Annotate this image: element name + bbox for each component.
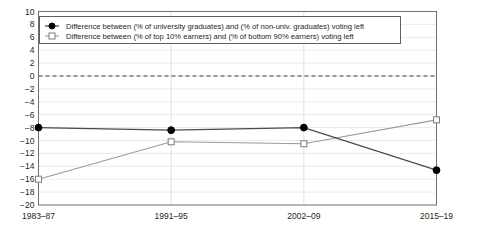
y-tick-label: −12: [20, 148, 35, 158]
data-point-marker: [300, 124, 307, 131]
data-point-marker: [168, 127, 175, 134]
legend-label-graduates: Difference between (% of university grad…: [66, 22, 365, 31]
legend-marker-filled-circle-icon: [49, 23, 55, 29]
legend-entry-graduates: Difference between (% of university grad…: [45, 22, 365, 31]
legend-label-earners: Difference between (% of top 10% earners…: [66, 32, 355, 41]
y-tick-label: −2: [25, 84, 35, 94]
y-tick-label: 8: [30, 19, 35, 29]
line-chart: 1086420−2−4−6−8−10−12−14−16−18−20 1983–8…: [0, 0, 477, 228]
data-point-marker: [36, 176, 42, 182]
y-tick-label: −20: [20, 200, 35, 210]
y-tick-label: −6: [25, 110, 35, 120]
x-axis-tick-labels: 1983–871991–952002–092015–19: [22, 211, 453, 221]
data-point-marker: [301, 141, 307, 147]
y-tick-label: −14: [20, 161, 35, 171]
y-tick-label: 10: [25, 7, 35, 17]
data-point-marker: [168, 139, 174, 145]
data-point-marker: [433, 167, 440, 174]
y-tick-label: 4: [30, 45, 35, 55]
x-tick-label: 1983–87: [22, 211, 55, 221]
horizontal-gridlines: [39, 24, 437, 192]
chart-legend: Difference between (% of university grad…: [40, 17, 401, 44]
y-tick-label: −16: [20, 174, 35, 184]
y-tick-label: −18: [20, 187, 35, 197]
x-tick-label: 1991–95: [155, 211, 188, 221]
y-tick-label: −4: [25, 97, 35, 107]
y-tick-label: −10: [20, 136, 35, 146]
x-tick-label: 2002–09: [287, 211, 320, 221]
y-tick-label: −8: [25, 123, 35, 133]
x-tick-label: 2015–19: [420, 211, 453, 221]
legend-entry-earners: Difference between (% of top 10% earners…: [45, 32, 355, 41]
legend-marker-open-square-icon: [49, 33, 55, 39]
y-tick-label: 6: [30, 32, 35, 42]
y-axis-tick-labels: 1086420−2−4−6−8−10−12−14−16−18−20: [20, 7, 35, 211]
data-point-marker: [434, 117, 440, 123]
data-point-marker: [35, 124, 42, 131]
series-markers-earners: [36, 117, 440, 182]
chart-container: 1086420−2−4−6−8−10−12−14−16−18−20 1983–8…: [0, 0, 477, 228]
y-tick-label: 0: [30, 71, 35, 81]
y-tick-label: 2: [30, 58, 35, 68]
series-line-graduates: [39, 128, 437, 171]
